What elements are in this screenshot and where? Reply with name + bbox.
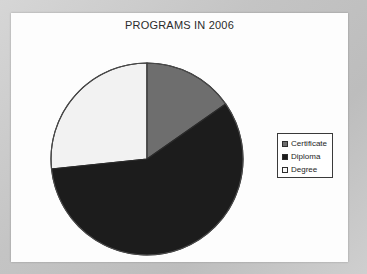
legend-item-degree[interactable]: Degree	[282, 163, 329, 176]
pie-chart-svg	[50, 62, 244, 256]
legend-item-diploma[interactable]: Diploma	[282, 150, 329, 163]
chart-legend: Certificate Diploma Degree	[277, 133, 333, 178]
legend-item-certificate[interactable]: Certificate	[282, 137, 329, 150]
legend-label-diploma: Diploma	[291, 152, 320, 161]
pie-slice-degree[interactable]	[51, 63, 147, 169]
legend-label-degree: Degree	[291, 165, 317, 174]
legend-swatch-icon-degree	[282, 167, 288, 173]
legend-swatch-icon-diploma	[282, 154, 288, 160]
legend-swatch-icon-certificate	[282, 141, 288, 147]
legend-label-certificate: Certificate	[291, 139, 327, 148]
chart-panel: PROGRAMS IN 2006 Certificate Diploma Deg…	[11, 13, 348, 262]
